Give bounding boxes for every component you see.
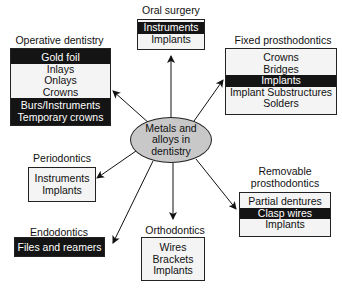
fixed-prosthodontics-item: Crowns — [226, 52, 336, 64]
operative-dentistry-item: Gold foil — [11, 52, 110, 64]
center-node: Metals and alloys in dentistry — [130, 117, 212, 163]
periodontics-item: Implants — [29, 185, 95, 197]
removable-prosthodontics-title: Removable prosthodontics — [241, 165, 329, 189]
fixed-prosthodontics-box: Crowns Bridges Implants Implant Substruc… — [225, 48, 337, 115]
removable-prosthodontics-box: Partial dentures Clasp wires Implants — [239, 192, 331, 237]
orthodontics-item: Implants — [142, 265, 204, 277]
arrow-removable-prosthodontics — [196, 159, 236, 209]
fixed-prosthodontics-title: Fixed prosthodontics — [227, 34, 339, 46]
arrow-fixed-prosthodontics — [194, 80, 223, 121]
periodontics-box: Instruments Implants — [28, 167, 96, 202]
oral-surgery-title: Oral surgery — [137, 4, 205, 16]
orthodontics-title: Orthodontics — [141, 224, 209, 236]
removable-prosthodontics-item: Partial dentures — [240, 196, 330, 208]
center-line-3: dentistry — [145, 146, 196, 158]
oral-surgery-box: Instruments Implants — [137, 19, 205, 50]
oral-surgery-item: Instruments — [138, 22, 204, 34]
endodontics-box: Files and reamers — [14, 237, 105, 257]
periodontics-title: Periodontics — [28, 152, 96, 164]
operative-dentistry-item: Crowns — [11, 87, 110, 99]
removable-prosthodontics-item: Implants — [240, 219, 330, 231]
removable-prosthodontics-title-line-2: prosthodontics — [241, 177, 329, 189]
arrow-operative-dentistry — [113, 91, 150, 124]
operative-dentistry-item: Burs/Instruments — [11, 98, 110, 112]
operative-dentistry-box: Gold foil Inlays Onlays Crowns Burs/Inst… — [10, 48, 111, 126]
orthodontics-item: Wires — [142, 242, 204, 254]
fixed-prosthodontics-item: Solders — [226, 98, 336, 110]
orthodontics-box: Wires Brackets Implants — [141, 237, 205, 281]
endodontics-item: Files and reamers — [15, 242, 104, 254]
arrow-periodontics — [97, 151, 136, 178]
operative-dentistry-title: Operative dentistry — [8, 34, 111, 46]
periodontics-item: Instruments — [29, 173, 95, 185]
operative-dentistry-item: Onlays — [11, 75, 110, 87]
removable-prosthodontics-title-line-1: Removable — [241, 165, 329, 177]
fixed-prosthodontics-item: Implants — [226, 75, 336, 87]
operative-dentistry-item: Temporary crowns — [11, 112, 110, 124]
oral-surgery-item: Implants — [138, 34, 204, 46]
